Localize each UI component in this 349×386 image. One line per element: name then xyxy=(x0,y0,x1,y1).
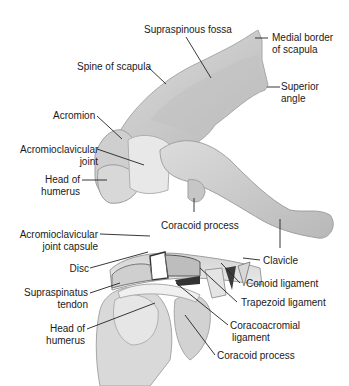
label-clavicle: Clavicle xyxy=(263,255,298,266)
label-supraspinatus-2: tendon xyxy=(10,299,88,310)
label-trapezoid-ligament: Trapezoid ligament xyxy=(241,297,326,308)
label-ac-capsule-1: Acromioclavicular xyxy=(10,229,98,240)
label-coracoid-process-top: Coracoid process xyxy=(161,220,239,231)
label-medial-border-2: of scapula xyxy=(272,44,318,55)
label-ac-joint-2: joint xyxy=(20,156,98,167)
shoulder-anatomy-diagram: Supraspinous fossa Medial border of scap… xyxy=(0,0,349,386)
label-disc: Disc xyxy=(40,263,89,274)
label-acromion: Acromion xyxy=(53,110,95,121)
label-head-humerus-top-2: humerus xyxy=(20,186,80,197)
label-supraspinatus-1: Supraspinatus xyxy=(10,287,88,298)
label-coracoacromial-1: Coracoacromial xyxy=(230,320,300,331)
label-supraspinous-fossa: Supraspinous fossa xyxy=(144,24,232,35)
label-coracoid-process-bottom: Coracoid process xyxy=(217,350,295,361)
label-ac-capsule-2: joint capsule xyxy=(10,241,98,252)
label-coracoacromial-2: ligament xyxy=(232,332,270,343)
label-superior-angle-2: angle xyxy=(281,93,305,104)
label-superior-angle-1: Superior xyxy=(281,81,319,92)
label-conoid-ligament: Conoid ligament xyxy=(246,278,318,289)
label-ac-joint-1: Acromioclavicular xyxy=(20,144,98,155)
label-spine-of-scapula: Spine of scapula xyxy=(77,61,151,72)
label-head-humerus-bottom-2: humerus xyxy=(10,335,85,346)
label-head-humerus-bottom-1: Head of xyxy=(10,323,85,334)
label-head-humerus-top-1: Head of xyxy=(20,174,80,185)
label-medial-border-1: Medial border xyxy=(272,32,333,43)
